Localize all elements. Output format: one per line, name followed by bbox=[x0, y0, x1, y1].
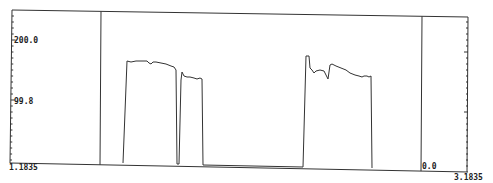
baseline-label: 0.0 bbox=[422, 162, 436, 171]
x-range-left-label: 1.1835 bbox=[9, 163, 38, 172]
right-marker bbox=[421, 16, 422, 171]
signal-line bbox=[123, 56, 372, 168]
plot-frame bbox=[10, 10, 468, 172]
vertical-markers bbox=[100, 11, 422, 171]
bottom-axis bbox=[10, 163, 468, 172]
x-range-right-label: 3.1835 bbox=[454, 173, 483, 182]
left-axis bbox=[10, 10, 12, 163]
plot-area bbox=[0, 0, 493, 183]
left-marker bbox=[100, 11, 101, 164]
y-tick-label-99-8: 99.8 bbox=[14, 97, 33, 106]
top-border bbox=[12, 10, 468, 17]
y-tick-label-200: 200.0 bbox=[14, 36, 38, 45]
